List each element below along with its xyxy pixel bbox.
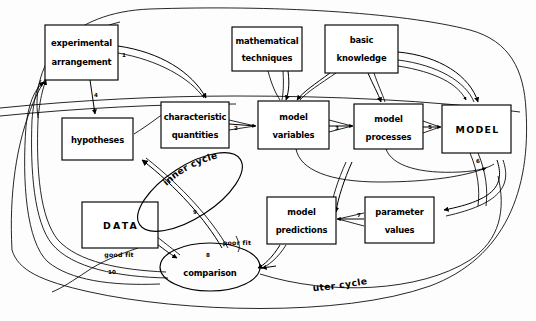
edge-1-path-b [118,53,204,98]
node-label-experimental-arrangement-line2: arrangement [52,57,112,67]
edge-layer [0,46,520,292]
edge-number-5: 5 [428,124,432,130]
diagram-canvas: experimental arrangement mathematical te… [0,0,536,321]
edge-number-2: 2 [234,125,238,131]
edge-3-path-c [329,126,352,132]
node-characteristic-quantities[interactable]: characteristic quantities [161,102,229,148]
node-label-basic-knowledge-line1: basic [350,35,374,45]
basic-long-arc [398,66,466,100]
node-label-model: MODEL [456,124,500,135]
node-label-characteristic-quantities-line2: quantities [172,130,219,140]
node-label-model-processes-line2: processes [366,132,412,142]
edge-number-3: 3 [335,125,339,131]
edge-7-path-c [338,219,364,226]
edge-number-1: 1 [122,52,126,58]
model-to-parameter-values [444,160,500,210]
node-label-model-processes-line1: model [374,114,403,124]
edge-number-4: 4 [94,92,98,98]
node-model-processes[interactable]: model processes [354,104,423,149]
node-label-model-variables-line2: variables [273,130,315,140]
basic-to-model-variables [297,73,330,100]
edge-3-path-b [329,120,352,126]
basic-to-model-variables-b [300,73,336,100]
node-data[interactable]: DATA [82,202,158,248]
edge-10-outer [25,82,160,284]
node-label-model-predictions-line1: model [287,207,316,217]
node-comparison[interactable]: comparison [160,243,260,291]
node-label-parameter-values-line2: values [385,225,415,235]
math-to-model-variables [286,71,289,100]
edge-number-9: 9 [193,209,197,215]
node-label-model-predictions-line2: predictions [276,225,328,235]
cycle-label-inner: inner cycle [160,149,219,187]
node-parameter-values[interactable]: parameter values [365,197,434,243]
node-label-mathematical-techniques-line2: techniques [242,53,293,63]
node-label-comparison: comparison [183,268,236,278]
basic-to-model-b [398,60,474,102]
node-label-data: DATA [103,220,139,231]
node-model[interactable]: MODEL [442,105,511,153]
node-label-parameter-values-line1: parameter [375,207,424,217]
node-mathematical-techniques[interactable]: mathematical techniques [232,27,302,71]
edge-number-8: 8 [206,252,210,258]
node-label-characteristic-quantities-line1: characteristic [164,112,227,122]
node-hypotheses[interactable]: hypotheses [62,118,133,160]
edge-label-good-fit: good fit [104,251,134,259]
math-to-model-variables-c [268,71,280,100]
node-experimental-arrangement[interactable]: experimental arrangement [45,25,118,80]
math-to-model-variables-b [282,71,283,100]
cycle-label-inner-text: inner cycle [160,149,219,187]
node-label-hypotheses: hypotheses [71,135,124,145]
node-label-model-variables-line1: model [279,112,308,122]
mv-down-arc [296,149,486,182]
edge-1-path [118,46,206,98]
predictions-to-comparison-b [260,245,286,269]
node-label-experimental-arrangement-line1: experimental [51,38,112,48]
node-label-basic-knowledge-line2: knowledge [337,53,387,63]
node-basic-knowledge[interactable]: basic knowledge [325,25,398,73]
edge-2-path-c [229,126,255,130]
node-model-variables[interactable]: model variables [258,101,329,149]
node-label-mathematical-techniques-line1: mathematical [236,36,299,46]
edge-number-10: 10 [108,269,116,275]
model-to-predictions [336,162,352,212]
edge-label-poor-fit: poor fit [223,239,251,247]
modelling-cycle-diagram: experimental arrangement mathematical te… [0,0,536,321]
edge-number-7: 7 [357,212,361,218]
node-model-predictions[interactable]: model predictions [267,197,336,244]
edge-number-6: 6 [476,158,480,164]
